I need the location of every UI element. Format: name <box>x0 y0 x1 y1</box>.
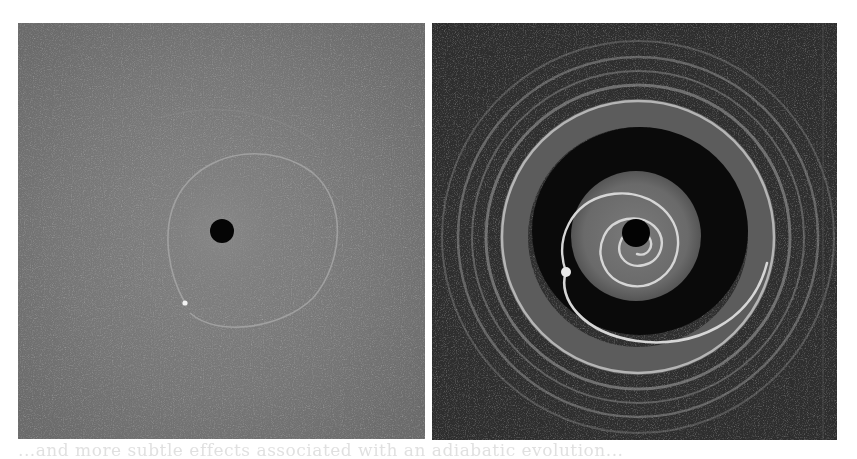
left-simulation-panel <box>18 23 425 439</box>
right-central-hole <box>622 219 650 247</box>
right-panel-image <box>432 23 837 440</box>
left-central-hole <box>210 219 234 243</box>
right-planet-point <box>561 267 571 277</box>
bleed-through-text: ...and more subtle effects associated wi… <box>18 441 838 459</box>
left-planet-point <box>182 300 187 305</box>
left-panel-image <box>18 23 425 439</box>
right-simulation-panel <box>432 23 837 440</box>
